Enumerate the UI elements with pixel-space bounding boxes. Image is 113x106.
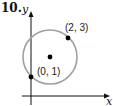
center-point [48,55,53,60]
point-label-0-1: (0, 1) [37,66,60,77]
coordinate-plane [0,0,113,106]
x-axis-label: x [106,95,112,106]
point-2-3 [66,36,71,41]
point-0-1 [29,75,34,80]
y-axis-label: y [22,3,28,16]
problem-number: 10. [1,1,22,15]
y-axis-arrow-icon [29,11,34,17]
circle-diagram: 10. y x (2, 3) (0, 1) [0,0,113,106]
point-label-2-3: (2, 3) [65,22,88,33]
